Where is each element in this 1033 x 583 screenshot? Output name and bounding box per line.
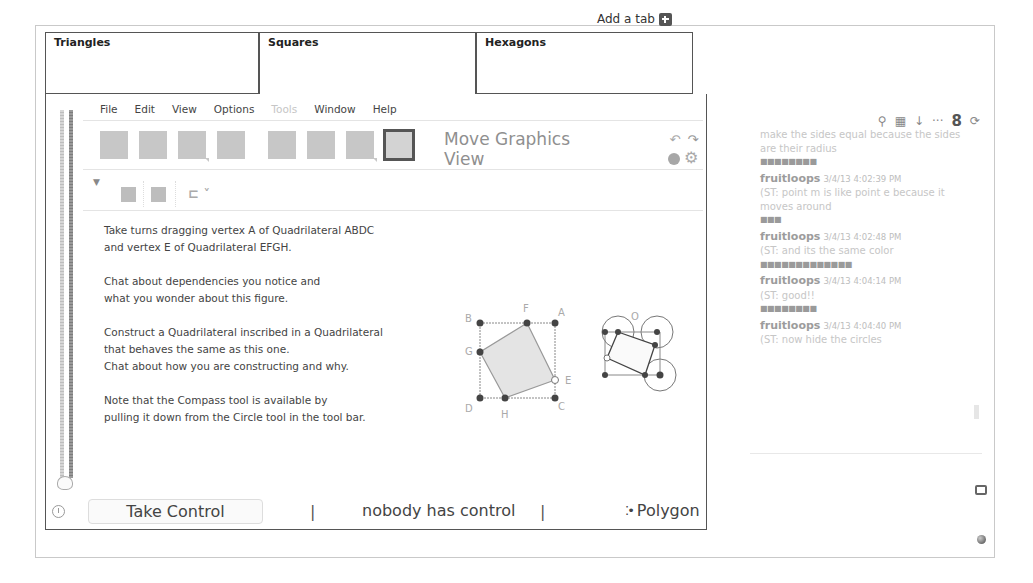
quadrilateral-figure[interactable]: B F A G E D H C O xyxy=(455,300,705,430)
add-tab-label: Add a tab xyxy=(597,12,655,26)
chat-message: fruitloops3/4/13 4:04:40 PM (ST: now hid… xyxy=(760,319,965,347)
divider xyxy=(175,181,176,207)
line-tool-icon[interactable] xyxy=(178,131,206,159)
pin-icon[interactable]: ⚲ xyxy=(878,114,887,128)
control-status: nobody has control xyxy=(362,501,515,520)
chat-timestamp: 3/4/13 4:04:40 PM xyxy=(823,321,901,331)
vertex-label-a: A xyxy=(558,307,565,318)
point-capturing-icon[interactable]: ⊏ ˅ xyxy=(188,186,210,201)
tab-label: Squares xyxy=(268,36,318,49)
chat-message: fruitloops3/4/13 4:02:39 PM (ST: point m… xyxy=(760,172,965,227)
undo-icon[interactable]: ↶ xyxy=(668,133,682,147)
chat-scrollbar[interactable] xyxy=(974,405,979,419)
chat-separator: ■■■■■■■■ xyxy=(760,155,965,169)
chat-message: make the sides equal because the sides a… xyxy=(760,128,965,169)
vertex-label-o: O xyxy=(631,311,639,322)
tab-triangles[interactable]: Triangles xyxy=(45,32,259,94)
instruction-paragraph: Note that the Compass tool is available … xyxy=(104,392,383,426)
chat-username: fruitloops xyxy=(760,274,820,287)
current-tool-label: Polygon xyxy=(637,501,700,520)
slider-rail-filled xyxy=(69,110,73,478)
circle-tool-icon[interactable] xyxy=(307,131,335,159)
slider-rail xyxy=(60,110,64,478)
chat-message-text: (ST: now hide the circles xyxy=(760,333,965,347)
move-graphics-view-tool-icon[interactable] xyxy=(383,129,415,161)
redo-icon[interactable]: ↷ xyxy=(686,133,700,147)
vmt-collaboration-window: Add a tab Triangles Squares Hexagons Fil… xyxy=(0,0,1033,583)
chat-username: fruitloops xyxy=(760,172,820,185)
point-tool-icon[interactable] xyxy=(139,131,167,159)
add-tab-button[interactable]: Add a tab xyxy=(597,12,672,26)
show-axes-icon[interactable] xyxy=(121,187,136,202)
chat-separator: ■■■ xyxy=(760,213,965,227)
tab-label: Triangles xyxy=(54,36,110,49)
awareness-icon[interactable] xyxy=(977,535,986,544)
current-tool-indicator: ⁚• Polygon xyxy=(625,501,700,520)
vertex-label-g: G xyxy=(465,346,473,357)
divider xyxy=(143,181,144,207)
send-message-icon[interactable] xyxy=(975,485,987,495)
chat-message-text: (ST: good!! xyxy=(760,289,965,303)
clock-icon[interactable] xyxy=(52,505,65,518)
vertex-label-c: C xyxy=(558,401,565,412)
chat-timestamp: 3/4/13 4:02:39 PM xyxy=(823,174,901,184)
gear-icon[interactable]: ⚙ xyxy=(684,151,698,165)
chat-separator: ■■■■■■■■ xyxy=(760,302,965,316)
vertex-label-f: F xyxy=(523,303,529,314)
help-icon[interactable] xyxy=(668,153,680,165)
vertex-label-d: D xyxy=(465,403,473,414)
menu-options[interactable]: Options xyxy=(214,103,255,115)
move-tool-icon[interactable] xyxy=(100,131,128,159)
separator: | xyxy=(540,502,545,521)
chat-username: fruitloops xyxy=(760,319,820,332)
chat-username: fruitloops xyxy=(760,230,820,243)
history-slider[interactable] xyxy=(58,110,76,488)
polygon-icon: ⁚• xyxy=(625,503,633,518)
chat-separator: ■■■■■■■■■■■■■ xyxy=(760,258,965,272)
collapse-caret-icon[interactable]: ▼ xyxy=(93,177,100,187)
polygon-tool-icon[interactable] xyxy=(268,131,296,159)
slider-thumb[interactable] xyxy=(57,476,73,490)
chat-message: fruitloops3/4/13 4:04:14 PM (ST: good!! … xyxy=(760,274,965,316)
geogebra-toolbar: Move Graphics View ↶ ↷ ⚙ xyxy=(83,120,703,170)
menu-edit[interactable]: Edit xyxy=(135,103,155,115)
chat-message-text: make the sides equal because the sides a… xyxy=(760,128,965,155)
image-icon[interactable]: ▦ xyxy=(895,114,906,128)
chat-message-text: (ST: and its the same color xyxy=(760,244,965,258)
menu-help[interactable]: Help xyxy=(373,103,397,115)
tab-label: Hexagons xyxy=(485,36,546,49)
tab-hexagons[interactable]: Hexagons xyxy=(476,32,693,94)
status-bar: Take Control | nobody has control | ⁚• P… xyxy=(45,495,707,530)
more-icon[interactable]: ··· xyxy=(932,114,943,128)
tab-squares[interactable]: Squares xyxy=(259,32,476,95)
chat-log: make the sides equal because the sides a… xyxy=(760,128,965,347)
menu-window[interactable]: Window xyxy=(314,103,355,115)
menu-tools: Tools xyxy=(271,103,297,115)
vertex-label-b: B xyxy=(465,313,472,324)
refresh-icon[interactable]: ⟳ xyxy=(970,114,980,128)
download-icon[interactable]: ↓ xyxy=(914,114,924,128)
compass-construction-figure: O xyxy=(602,311,676,391)
menu-bar: File Edit View Options Tools Window Help xyxy=(100,103,414,115)
menu-file[interactable]: File xyxy=(100,103,118,115)
plus-icon xyxy=(659,13,672,26)
selected-tool-title: Move Graphics View xyxy=(444,129,614,169)
instruction-paragraph: Take turns dragging vertex A of Quadrila… xyxy=(104,222,383,256)
vertex-label-e: E xyxy=(565,375,571,386)
show-grid-icon[interactable] xyxy=(151,187,166,202)
instructions-text: Take turns dragging vertex A of Quadrila… xyxy=(104,222,383,443)
separator: | xyxy=(310,502,315,521)
style-toolbar: ▼ ⊏ ˅ xyxy=(83,171,703,211)
chat-message-text: (ST: point m is like point e because it … xyxy=(760,186,965,213)
chat-timestamp: 3/4/13 4:02:48 PM xyxy=(823,232,901,242)
chat-timestamp: 3/4/13 4:04:14 PM xyxy=(823,276,901,286)
chat-input[interactable] xyxy=(750,453,982,548)
instruction-paragraph: Chat about dependencies you notice and w… xyxy=(104,273,383,307)
angle-tool-icon[interactable] xyxy=(346,131,374,159)
chat-panel: ⚲ ▦ ↓ ··· 8 ⟳ make the sides equal becau… xyxy=(745,110,990,550)
vertex-label-h: H xyxy=(501,409,509,420)
take-control-button[interactable]: Take Control xyxy=(88,499,263,524)
chat-message: fruitloops3/4/13 4:02:48 PM (ST: and its… xyxy=(760,230,965,272)
menu-view[interactable]: View xyxy=(172,103,197,115)
perpendicular-tool-icon[interactable] xyxy=(217,131,245,159)
